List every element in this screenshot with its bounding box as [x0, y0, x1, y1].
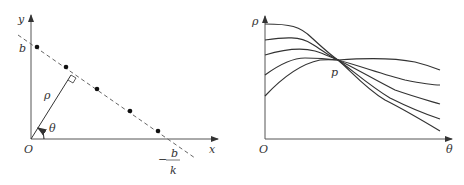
- y-axis-label: y: [17, 13, 25, 26]
- data-points: [35, 45, 161, 134]
- curve-3: [265, 49, 440, 104]
- x-intercept-numerator: b: [171, 147, 178, 160]
- curve-1: [265, 24, 440, 131]
- x-intercept-sign: −: [158, 153, 167, 166]
- theta-axis-label: θ: [446, 143, 453, 156]
- data-point: [95, 87, 100, 92]
- hough-transform-figure: y b ρ θ O x b − k ρ p O θ: [0, 0, 464, 185]
- rho-axis-label: ρ: [251, 15, 259, 28]
- theta-label: θ: [49, 122, 56, 135]
- data-point: [128, 109, 133, 114]
- data-point: [156, 129, 161, 134]
- rho-label: ρ: [43, 89, 51, 102]
- left-diagram: y b ρ θ O x b − k: [17, 13, 218, 177]
- sinusoid-curves: [265, 24, 440, 131]
- x-axis-label: x: [209, 143, 216, 156]
- right-diagram: ρ p O θ: [251, 15, 453, 156]
- origin-label: O: [259, 143, 268, 156]
- theta-arc: [38, 128, 44, 139]
- data-point: [64, 65, 69, 70]
- right-angle-marker: [68, 75, 76, 83]
- data-point: [35, 45, 40, 50]
- b-intercept-label: b: [19, 42, 26, 55]
- x-intercept-denominator: k: [170, 164, 177, 177]
- origin-label: O: [24, 143, 33, 156]
- intersection-point-label: p: [331, 66, 338, 79]
